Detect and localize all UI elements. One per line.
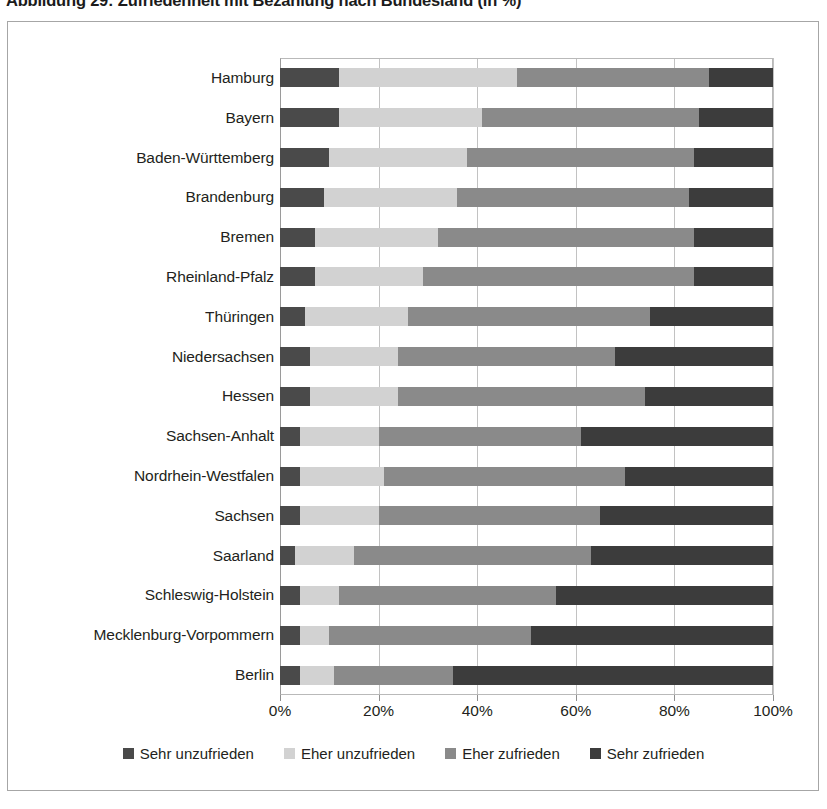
- category-label: Brandenburg: [0, 188, 274, 206]
- bar-row: Sachsen-Anhalt: [0, 416, 827, 456]
- stacked-bar: [280, 108, 773, 127]
- category-label: Baden-Württemberg: [0, 149, 274, 167]
- bar-segment: [280, 427, 300, 446]
- legend-label: Sehr unzufrieden: [140, 745, 254, 762]
- bar-segment: [581, 427, 773, 446]
- bar-segment: [280, 148, 329, 167]
- bar-segment: [280, 228, 315, 247]
- x-tick: [674, 695, 675, 701]
- x-tick-label: 40%: [462, 702, 493, 720]
- bar-segment: [339, 586, 556, 605]
- category-label: Saarland: [0, 547, 274, 565]
- bar-segment: [280, 666, 300, 685]
- stacked-bar: [280, 666, 773, 685]
- chart-legend: Sehr unzufriedenEher unzufriedenEher zuf…: [0, 745, 827, 762]
- bar-row: Bremen: [0, 217, 827, 257]
- bar-segment: [591, 546, 773, 565]
- category-label: Hamburg: [0, 69, 274, 87]
- x-tick-label: 20%: [363, 702, 394, 720]
- bar-segment: [699, 108, 773, 127]
- x-tick: [477, 695, 478, 701]
- bar-segment: [280, 188, 324, 207]
- legend-item[interactable]: Eher zufrieden: [445, 745, 560, 762]
- bar-segment: [300, 626, 330, 645]
- x-tick-label: 60%: [560, 702, 591, 720]
- bar-segment: [315, 228, 438, 247]
- category-label: Berlin: [0, 666, 274, 684]
- bar-row: Sachsen: [0, 496, 827, 536]
- category-label: Nordrhein-Westfalen: [0, 467, 274, 485]
- legend-swatch-icon: [445, 748, 456, 759]
- bar-row: Berlin: [0, 655, 827, 695]
- bar-segment: [295, 546, 354, 565]
- stacked-bar: [280, 267, 773, 286]
- category-label: Thüringen: [0, 308, 274, 326]
- legend-swatch-icon: [284, 748, 295, 759]
- bar-row: Hamburg: [0, 58, 827, 98]
- bar-row: Mecklenburg-Vorpommern: [0, 615, 827, 655]
- category-label: Niedersachsen: [0, 348, 274, 366]
- stacked-bar: [280, 148, 773, 167]
- bar-segment: [300, 506, 379, 525]
- bar-segment: [324, 188, 457, 207]
- bar-segment: [280, 68, 339, 87]
- stacked-bar: [280, 626, 773, 645]
- x-tick-label: 100%: [753, 702, 793, 720]
- bar-row: Bayern: [0, 98, 827, 138]
- bar-segment: [315, 267, 423, 286]
- bar-segment: [305, 307, 409, 326]
- bar-segment: [280, 387, 310, 406]
- bar-segment: [280, 108, 339, 127]
- stacked-bar: [280, 188, 773, 207]
- bar-segment: [625, 467, 773, 486]
- x-tick: [773, 695, 774, 701]
- bar-segment: [398, 387, 645, 406]
- bar-segment: [384, 467, 626, 486]
- bar-row: Brandenburg: [0, 177, 827, 217]
- bar-segment: [709, 68, 773, 87]
- bar-segment: [467, 148, 694, 167]
- bar-segment: [334, 666, 452, 685]
- x-tick-label: 0%: [269, 702, 291, 720]
- bar-segment: [517, 68, 709, 87]
- legend-item[interactable]: Eher unzufrieden: [284, 745, 415, 762]
- bar-segment: [280, 467, 300, 486]
- category-label: Bayern: [0, 109, 274, 127]
- category-label: Sachsen: [0, 507, 274, 525]
- stacked-bar: [280, 307, 773, 326]
- bar-segment: [600, 506, 773, 525]
- bar-segment: [694, 228, 773, 247]
- bar-segment: [280, 626, 300, 645]
- stacked-bar: [280, 467, 773, 486]
- bar-segment: [300, 666, 335, 685]
- category-label: Bremen: [0, 228, 274, 246]
- bar-segment: [689, 188, 773, 207]
- bar-row: Baden-Württemberg: [0, 138, 827, 178]
- legend-item[interactable]: Sehr zufrieden: [590, 745, 705, 762]
- bar-segment: [457, 188, 689, 207]
- bar-segment: [438, 228, 694, 247]
- category-label: Mecklenburg-Vorpommern: [0, 626, 274, 644]
- bar-segment: [280, 267, 315, 286]
- bar-segment: [379, 427, 581, 446]
- bar-segment: [694, 267, 773, 286]
- bar-segment: [423, 267, 694, 286]
- legend-label: Eher zufrieden: [462, 745, 560, 762]
- stacked-bar: [280, 68, 773, 87]
- bar-segment: [694, 148, 773, 167]
- bar-segment: [354, 546, 591, 565]
- bar-segment: [650, 307, 773, 326]
- bar-segment: [300, 586, 339, 605]
- stacked-bar: [280, 427, 773, 446]
- legend-item[interactable]: Sehr unzufrieden: [123, 745, 254, 762]
- bar-row: Niedersachsen: [0, 337, 827, 377]
- legend-swatch-icon: [590, 748, 601, 759]
- bar-segment: [310, 347, 399, 366]
- category-label: Rheinland-Pfalz: [0, 268, 274, 286]
- bar-segment: [398, 347, 615, 366]
- bar-row: Saarland: [0, 536, 827, 576]
- bar-segment: [379, 506, 601, 525]
- bar-segment: [329, 626, 531, 645]
- stacked-bar: [280, 586, 773, 605]
- legend-swatch-icon: [123, 748, 134, 759]
